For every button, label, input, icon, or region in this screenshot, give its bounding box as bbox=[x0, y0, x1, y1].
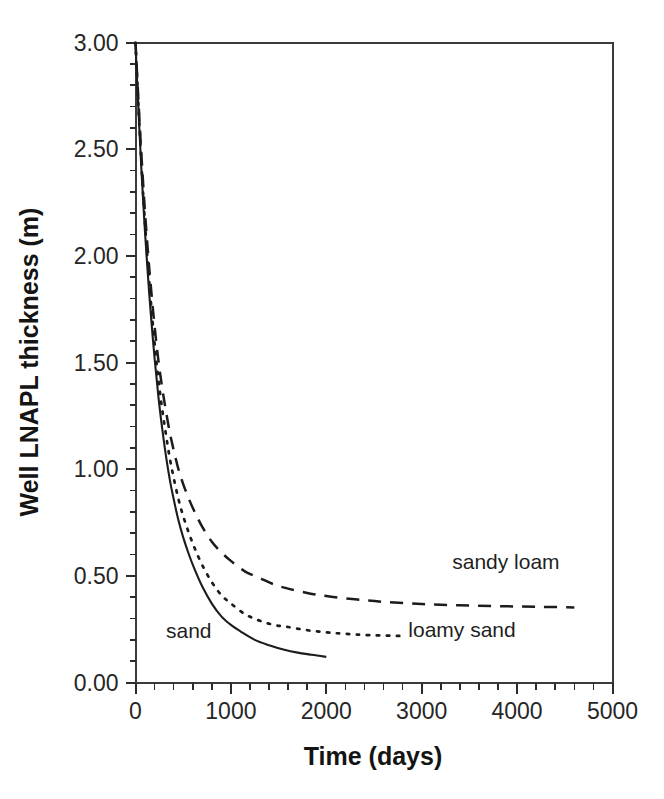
x-tick-label: 3000 bbox=[396, 698, 447, 724]
y-tick-label: 2.00 bbox=[74, 243, 119, 269]
x-tick-label: 0 bbox=[129, 698, 142, 724]
x-tick-label: 1000 bbox=[205, 698, 256, 724]
x-axis-title: Time (days) bbox=[304, 742, 442, 770]
y-axis-tick-labels: 0.000.501.001.502.002.503.00 bbox=[74, 30, 119, 696]
series-curve-sandy-loam bbox=[136, 43, 575, 608]
x-axis-minor-ticks bbox=[155, 683, 594, 690]
y-axis-title: Well LNAPL thickness (m) bbox=[15, 208, 43, 517]
y-tick-label: 0.50 bbox=[74, 563, 119, 589]
lnapl-thickness-line-chart: 0.000.501.001.502.002.503.00 01000200030… bbox=[0, 0, 664, 799]
x-axis-major-ticks bbox=[136, 683, 613, 694]
y-tick-label: 0.00 bbox=[74, 670, 119, 696]
y-tick-label: 1.00 bbox=[74, 456, 119, 482]
series-label-loamy-sand: loamy sand bbox=[408, 618, 515, 641]
series-annotation-group: sandloamy sandsandy loam bbox=[166, 550, 560, 641]
y-axis-major-ticks bbox=[126, 43, 136, 683]
series-label-sand: sand bbox=[166, 619, 212, 642]
caption-smudge bbox=[0, 783, 664, 799]
axis-frame bbox=[136, 43, 613, 683]
x-tick-label: 4000 bbox=[492, 698, 543, 724]
plot-frame bbox=[136, 43, 613, 683]
series-curve-sand bbox=[136, 43, 327, 657]
figure-container: 0.000.501.001.502.002.503.00 01000200030… bbox=[0, 0, 664, 799]
series-label-sandy-loam: sandy loam bbox=[452, 550, 559, 573]
x-axis-tick-labels: 010002000300040005000 bbox=[129, 698, 638, 724]
x-tick-label: 5000 bbox=[587, 698, 638, 724]
y-tick-label: 2.50 bbox=[74, 136, 119, 162]
y-tick-label: 1.50 bbox=[74, 350, 119, 376]
y-tick-label: 3.00 bbox=[74, 30, 119, 56]
x-tick-label: 2000 bbox=[301, 698, 352, 724]
series-curve-loamy-sand bbox=[136, 43, 403, 636]
